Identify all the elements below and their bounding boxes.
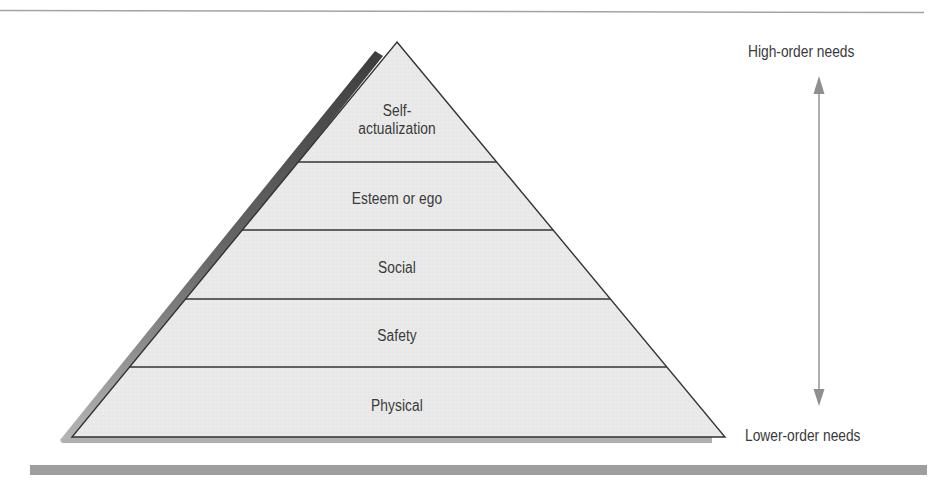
pyramid-diagram: Self- actualization Esteem or ego Social… (0, 0, 939, 489)
layer-label-self-actualization: Self- actualization (358, 102, 436, 138)
layer-label-line-2: actualization (358, 120, 436, 138)
layer-label-safety: Safety (377, 327, 417, 345)
layer-label-line-1: Self- (358, 102, 436, 120)
arrow-down-head-icon (814, 389, 825, 406)
pyramid-graphic (0, 0, 939, 489)
arrow-up-head-icon (814, 76, 825, 94)
layer-label-social: Social (378, 259, 416, 277)
layer-label-physical: Physical (371, 397, 423, 415)
pyramid-shadow-base (60, 437, 712, 443)
layer-label-esteem: Esteem or ego (352, 190, 443, 208)
top-rule (0, 11, 924, 13)
order-arrow (814, 76, 825, 406)
high-order-needs-label: High-order needs (748, 43, 854, 61)
bottom-rule (30, 465, 927, 475)
lower-order-needs-label: Lower-order needs (745, 427, 860, 445)
